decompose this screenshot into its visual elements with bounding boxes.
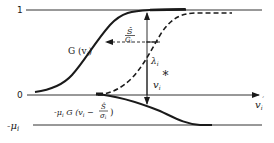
label-g-curve: G (vi) bbox=[68, 46, 92, 57]
level-label-neg-mu: -μi bbox=[7, 120, 19, 133]
label-v-star: vi* bbox=[153, 69, 169, 91]
label-lambda: λi bbox=[150, 56, 159, 67]
label-x-axis-prime: ˊ bbox=[261, 96, 265, 104]
svg-text:Ŝ: Ŝ bbox=[127, 27, 133, 36]
svg-text:-μi G (vi −: -μi G (vi − bbox=[54, 108, 94, 118]
curve-upper-top-thick bbox=[150, 10, 186, 11]
level-label-zero: 0 bbox=[17, 90, 23, 100]
diagram-canvas: 1 0 -μi G (vi) Ŝ Gi λi vi* vi ˊ -μi G (v… bbox=[0, 0, 274, 143]
label-lower-curve: -μi G (vi − Ŝ σi ) bbox=[54, 102, 114, 120]
label-shift-fraction: Ŝ Gi bbox=[125, 27, 135, 44]
svg-text:): ) bbox=[110, 107, 114, 117]
level-label-one: 1 bbox=[17, 5, 23, 15]
curve-lower-start-mark bbox=[96, 93, 103, 96]
svg-text:Gi: Gi bbox=[125, 36, 133, 44]
svg-text:Ŝ: Ŝ bbox=[101, 102, 106, 111]
svg-text:σi: σi bbox=[100, 112, 107, 120]
